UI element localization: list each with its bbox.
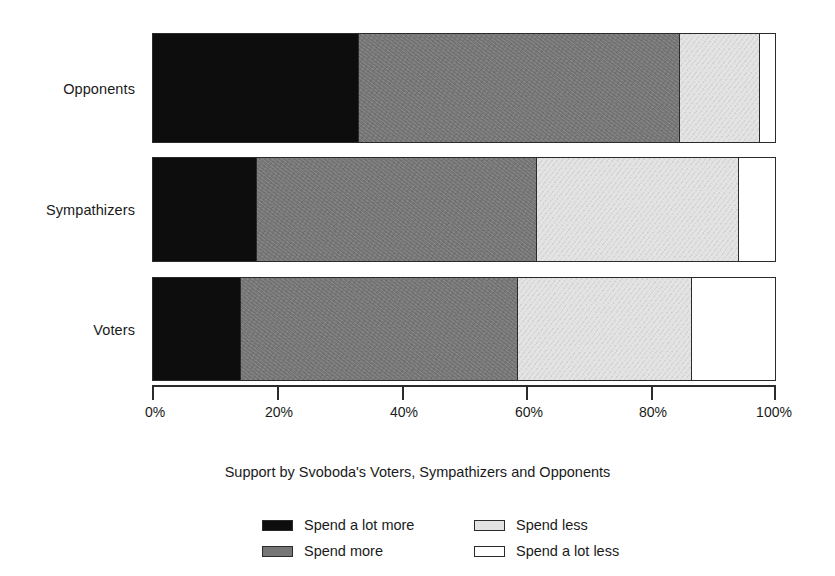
- legend-swatch-icon: [474, 546, 505, 557]
- legend-swatch-icon: [474, 520, 505, 531]
- x-axis-tick-label: 100%: [756, 404, 792, 420]
- chart-legend: Spend a lot more Spend less Spend more S…: [262, 512, 682, 564]
- legend-label: Spend more: [304, 543, 383, 559]
- legend-label: Spend a lot less: [516, 543, 619, 559]
- bar-segment-spend-a-lot-more: [153, 34, 358, 142]
- bar-segment-spend-less: [517, 278, 691, 380]
- x-axis-tick: [774, 387, 776, 400]
- legend-item-spend-less: Spend less: [474, 517, 682, 533]
- x-axis-tick: [651, 387, 653, 400]
- x-axis: 0% 20% 40% 60% 80% 100%: [152, 385, 776, 401]
- stacked-bar-chart: Opponents Sympathizers Voters: [0, 0, 835, 576]
- x-axis-tick: [277, 387, 279, 400]
- category-label-opponents: Opponents: [0, 81, 135, 97]
- bar-segment-spend-more: [240, 278, 517, 380]
- legend-swatch-icon: [262, 520, 293, 531]
- bar-segment-spend-a-lot-less: [691, 278, 775, 380]
- x-axis-tick-label: 0%: [145, 404, 165, 420]
- bar-segment-spend-a-lot-more: [153, 158, 256, 261]
- category-label-sympathizers: Sympathizers: [0, 202, 135, 218]
- bar-segment-spend-less: [536, 158, 738, 261]
- bar-segment-spend-a-lot-less: [738, 158, 775, 261]
- legend-swatch-icon: [262, 546, 293, 557]
- legend-label: Spend a lot more: [304, 517, 414, 533]
- x-axis-tick: [152, 387, 154, 400]
- bar-segment-spend-less: [679, 34, 760, 142]
- bar-row: [152, 277, 776, 381]
- bar-segment-spend-more: [358, 34, 678, 142]
- x-axis-tick: [402, 387, 404, 400]
- bar-segment-spend-more: [256, 158, 536, 261]
- legend-item-spend-a-lot-less: Spend a lot less: [474, 543, 682, 559]
- bar-segment-spend-a-lot-more: [153, 278, 240, 380]
- legend-item-spend-a-lot-more: Spend a lot more: [262, 517, 474, 533]
- bar-row: [152, 33, 776, 143]
- legend-item-spend-more: Spend more: [262, 543, 474, 559]
- x-axis-tick: [526, 387, 528, 400]
- x-axis-tick-label: 80%: [639, 404, 667, 420]
- x-axis-tick-label: 60%: [515, 404, 543, 420]
- legend-label: Spend less: [516, 517, 588, 533]
- plot-area: [152, 33, 776, 381]
- x-axis-tick-label: 20%: [265, 404, 293, 420]
- category-label-voters: Voters: [0, 322, 135, 338]
- x-axis-tick-label: 40%: [390, 404, 418, 420]
- chart-caption: Support by Svoboda's Voters, Sympathizer…: [0, 464, 835, 480]
- bar-row: [152, 157, 776, 262]
- bar-segment-spend-a-lot-less: [759, 34, 775, 142]
